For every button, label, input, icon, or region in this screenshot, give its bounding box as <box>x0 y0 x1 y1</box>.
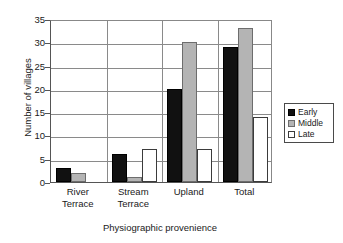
y-tick-mark <box>45 136 50 137</box>
y-tick-label: 15 <box>25 108 45 118</box>
y-tick-mark <box>45 113 50 114</box>
y-tick-label: 25 <box>25 62 45 72</box>
x-tick-label-line: Stream <box>106 186 162 198</box>
bar-group <box>162 21 218 182</box>
bar-late <box>197 149 212 182</box>
bar-late <box>253 117 268 182</box>
y-tick-label: 35 <box>25 15 45 25</box>
bar-middle <box>238 28 253 182</box>
x-tick-label-line: Terrace <box>50 198 106 210</box>
y-tick-mark <box>45 20 50 21</box>
bar-group <box>107 21 163 182</box>
bar-group <box>218 21 274 182</box>
bar-group <box>51 21 107 182</box>
y-tick-label: 20 <box>25 85 45 95</box>
x-tick-label-line: Upland <box>161 186 217 198</box>
group-separator <box>218 21 219 182</box>
bar-middle <box>127 177 142 182</box>
legend-swatch-icon <box>288 131 295 138</box>
group-separator <box>107 21 108 182</box>
bar-early <box>223 47 238 182</box>
y-tick-label: 5 <box>25 155 45 165</box>
y-tick-label: 30 <box>25 38 45 48</box>
bar-early <box>167 89 182 182</box>
legend-item[interactable]: Early <box>288 107 330 117</box>
legend-label: Late <box>298 130 315 139</box>
y-axis-tick-labels: 05101520253035 <box>25 0 45 243</box>
legend-swatch-icon <box>288 120 295 127</box>
y-tick-label: 10 <box>25 131 45 141</box>
y-tick-mark <box>45 183 50 184</box>
y-tick-mark <box>45 90 50 91</box>
legend-item[interactable]: Late <box>288 129 330 139</box>
y-tick-label: 0 <box>25 178 45 188</box>
y-tick-mark <box>45 67 50 68</box>
chart-legend: EarlyMiddleLate <box>284 103 334 143</box>
bar-chart-figure: Number of villages 05101520253035 RiverT… <box>0 0 343 243</box>
bar-middle <box>71 173 86 182</box>
y-tick-mark <box>45 43 50 44</box>
plot-area <box>50 20 272 183</box>
bar-groups <box>51 21 271 182</box>
bar-early <box>112 154 127 182</box>
bar-early <box>56 168 71 182</box>
x-tick-label-line: Terrace <box>106 198 162 210</box>
x-axis-tick-labels: RiverTerraceStreamTerraceUplandTotal <box>50 186 272 226</box>
bar-late <box>142 149 157 182</box>
x-tick-label: RiverTerrace <box>50 186 106 209</box>
x-tick-label: Upland <box>161 186 217 198</box>
x-tick-label-line: Total <box>217 186 273 198</box>
x-axis-title: Physiographic provenience <box>40 222 280 233</box>
y-tick-mark <box>45 160 50 161</box>
bar-middle <box>182 42 197 182</box>
x-tick-label: StreamTerrace <box>106 186 162 209</box>
x-tick-label-line: River <box>50 186 106 198</box>
legend-label: Middle <box>298 119 323 128</box>
legend-item[interactable]: Middle <box>288 118 330 128</box>
group-separator <box>162 21 163 182</box>
x-tick-label: Total <box>217 186 273 198</box>
legend-label: Early <box>298 108 317 117</box>
legend-swatch-icon <box>288 109 295 116</box>
